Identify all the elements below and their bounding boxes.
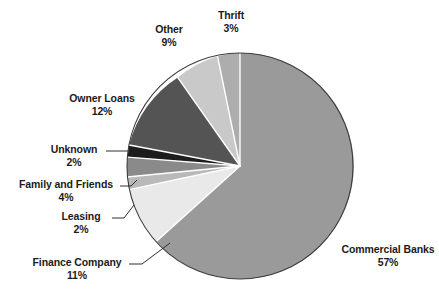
label-commercial-banks: Commercial Banks 57% [339, 243, 437, 270]
label-finance-company: Finance Company 11% [28, 256, 126, 283]
label-thrift: Thrift 3% [203, 9, 259, 36]
pie-chart-page: Other 9% Thrift 3% Owner Loans 12% Unkno… [0, 0, 439, 299]
label-other-pct: 9% [139, 36, 199, 49]
label-unknown: Unknown 2% [44, 143, 104, 170]
label-thrift-name: Thrift [203, 9, 259, 22]
label-commercial-banks-name: Commercial Banks [339, 243, 437, 256]
label-finance-company-name: Finance Company [28, 256, 126, 269]
label-unknown-name: Unknown [44, 143, 104, 156]
label-other: Other 9% [139, 23, 199, 50]
label-unknown-pct: 2% [44, 156, 104, 169]
label-family-and-friends: Family and Friends 4% [14, 178, 118, 205]
label-family-and-friends-pct: 4% [14, 191, 118, 204]
label-commercial-banks-pct: 57% [339, 256, 437, 269]
label-owner-loans: Owner Loans 12% [60, 92, 144, 119]
label-finance-company-pct: 11% [28, 269, 126, 282]
label-owner-loans-name: Owner Loans [60, 92, 144, 105]
leader-line-leasing [112, 205, 134, 218]
label-leasing-pct: 2% [52, 223, 110, 236]
label-thrift-pct: 3% [203, 22, 259, 35]
label-family-and-friends-name: Family and Friends [14, 178, 118, 191]
label-leasing-name: Leasing [52, 210, 110, 223]
label-other-name: Other [139, 23, 199, 36]
label-leasing: Leasing 2% [52, 210, 110, 237]
label-owner-loans-pct: 12% [60, 105, 144, 118]
